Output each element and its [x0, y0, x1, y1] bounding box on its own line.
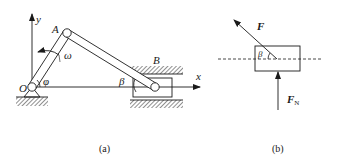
panel-a: y x A B O ω φ β (a)	[16, 13, 201, 155]
mechanism-diagram: y x A B O ω φ β (a) F β FN (b)	[0, 0, 339, 166]
label-a: A	[51, 23, 59, 35]
label-phi: φ	[43, 75, 49, 87]
connecting-rod-ab	[65, 30, 156, 91]
label-fn-sub: N	[294, 99, 299, 107]
caption-b: (b)	[272, 143, 284, 155]
lower-guide-hatch	[130, 100, 183, 108]
label-beta-a: β	[118, 75, 125, 87]
panel-b: F β FN (b)	[218, 20, 322, 155]
caption-a: (a)	[99, 143, 110, 155]
label-x: x	[195, 70, 201, 82]
pin-o	[28, 83, 36, 91]
label-b: B	[153, 54, 160, 66]
label-y: y	[35, 13, 41, 25]
omega-tick	[59, 55, 60, 62]
label-beta-b: β	[257, 49, 263, 59]
pin-b	[151, 83, 159, 91]
ground-hatch	[16, 97, 48, 106]
force-f-arrow-icon	[234, 20, 277, 59]
label-omega: ω	[64, 49, 72, 61]
label-o: O	[19, 82, 27, 94]
beta-angle-arc-b	[268, 53, 270, 59]
label-force-f: F	[256, 20, 265, 32]
label-normal-force: FN	[286, 93, 299, 107]
pin-a	[63, 29, 71, 37]
